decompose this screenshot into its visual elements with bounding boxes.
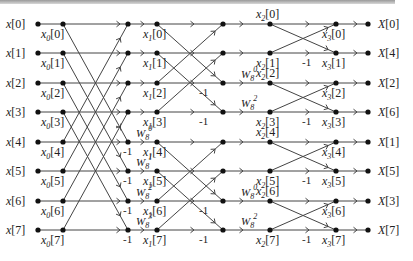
input-label-0: x[0] <box>5 17 25 31</box>
wires <box>38 24 368 230</box>
negative-label: -1 <box>302 56 311 68</box>
input-label-3: x[3] <box>5 105 25 119</box>
x3-label-4: x3[4] <box>321 145 345 161</box>
output-label-6: X[3] <box>377 194 399 208</box>
x0-label-6: x0[6] <box>40 204 64 220</box>
negative-label: -1 <box>199 115 208 127</box>
twiddle-label: W80 <box>241 183 257 201</box>
x3-label-2: x3[2] <box>321 86 345 102</box>
twiddle-label: W80 <box>241 65 257 83</box>
x1-node-5 <box>154 168 159 173</box>
stage2-sum-node-4 <box>220 139 225 144</box>
input-label-7: x[7] <box>5 223 25 237</box>
output-node-1 <box>365 50 370 55</box>
negative-label: -1 <box>123 145 132 157</box>
x1-label-1: x1[1] <box>142 56 166 72</box>
x3-label-3: x3[3] <box>321 115 345 131</box>
input-node-7 <box>35 227 40 232</box>
x0-label-1: x0[1] <box>40 56 64 72</box>
x0-node-0 <box>60 21 65 26</box>
negative-label: -1 <box>302 115 311 127</box>
x2-node-6 <box>267 198 272 203</box>
labels: x[0]x[1]x[2]x[3]x[4]x[5]x[6]x[7]X[0]X[4]… <box>5 7 399 249</box>
x3-node-5 <box>333 168 338 173</box>
input-node-6 <box>35 198 40 203</box>
input-label-4: x[4] <box>5 135 25 149</box>
x0-label-7: x0[7] <box>40 233 64 249</box>
x1-label-6: x1[6] <box>142 204 166 220</box>
stage1-sum-node-1 <box>125 50 130 55</box>
stage1-sum-node-5 <box>125 168 130 173</box>
x3-node-1 <box>333 50 338 55</box>
output-node-3 <box>365 109 370 114</box>
x2-node-2 <box>267 80 272 85</box>
x0-node-6 <box>60 198 65 203</box>
twiddle-label: W82 <box>241 212 257 230</box>
input-node-3 <box>35 109 40 114</box>
input-node-5 <box>35 168 40 173</box>
x2-label-4: x2[4] <box>255 125 279 141</box>
twiddle-label: W82 <box>136 183 152 201</box>
stage1-sum-node-6 <box>125 198 130 203</box>
x0-node-3 <box>60 109 65 114</box>
twiddle-label: W80 <box>136 124 152 142</box>
input-label-5: x[5] <box>5 164 25 178</box>
x2-node-5 <box>267 168 272 173</box>
x2-node-0 <box>267 21 272 26</box>
x1-node-4 <box>154 139 159 144</box>
x3-node-7 <box>333 227 338 232</box>
negative-label: -1 <box>123 233 132 245</box>
stage2-sum-node-0 <box>220 21 225 26</box>
fft-butterfly-diagram: x[0]x[1]x[2]x[3]x[4]x[5]x[6]x[7]X[0]X[4]… <box>0 0 413 261</box>
x1-node-3 <box>154 109 159 114</box>
x2-label-2: x2[2] <box>255 66 279 82</box>
input-label-1: x[1] <box>5 46 25 60</box>
x1-label-5: x1[5] <box>142 174 166 190</box>
stage2-sum-node-1 <box>220 50 225 55</box>
x1-node-0 <box>154 21 159 26</box>
stage2-sum-node-6 <box>220 198 225 203</box>
x2-node-4 <box>267 139 272 144</box>
input-label-2: x[2] <box>5 76 25 90</box>
stage1-sum-node-2 <box>125 80 130 85</box>
negative-label: -1 <box>123 174 132 186</box>
x2-label-0: x2[0] <box>255 7 279 23</box>
output-label-5: X[5] <box>377 164 399 178</box>
stage2-sum-node-3 <box>220 109 225 114</box>
x2-label-7: x2[7] <box>255 233 279 249</box>
x3-label-1: x3[1] <box>321 56 345 72</box>
negative-label: -1 <box>199 204 208 216</box>
x1-label-4: x1[4] <box>142 145 166 161</box>
stage2-sum-node-2 <box>220 80 225 85</box>
input-node-4 <box>35 139 40 144</box>
x1-node-7 <box>154 227 159 232</box>
output-node-7 <box>365 227 370 232</box>
x0-node-7 <box>60 227 65 232</box>
input-node-2 <box>35 80 40 85</box>
x0-label-2: x0[2] <box>40 86 64 102</box>
x0-node-5 <box>60 168 65 173</box>
output-node-2 <box>365 80 370 85</box>
x0-label-3: x0[3] <box>40 115 64 131</box>
x3-node-0 <box>333 21 338 26</box>
negative-label: -1 <box>123 204 132 216</box>
x3-node-3 <box>333 109 338 114</box>
x2-node-3 <box>267 109 272 114</box>
negative-label: -1 <box>199 233 208 245</box>
x1-label-2: x1[2] <box>142 86 166 102</box>
output-node-6 <box>365 198 370 203</box>
negative-label: -1 <box>302 174 311 186</box>
output-label-7: X[7] <box>377 223 399 237</box>
x3-label-7: x3[7] <box>321 233 345 249</box>
output-label-3: X[6] <box>377 105 399 119</box>
stage1-sum-node-4 <box>125 139 130 144</box>
x0-label-5: x0[5] <box>40 174 64 190</box>
x0-label-0: x0[0] <box>40 27 64 43</box>
output-label-4: X[1] <box>377 135 399 149</box>
stage2-sum-node-5 <box>220 168 225 173</box>
x0-node-1 <box>60 50 65 55</box>
twiddle-label: W83 <box>136 212 152 230</box>
stage1-sum-node-0 <box>125 21 130 26</box>
x1-label-3: x1[3] <box>142 115 166 131</box>
x3-label-0: x3[0] <box>321 27 345 43</box>
